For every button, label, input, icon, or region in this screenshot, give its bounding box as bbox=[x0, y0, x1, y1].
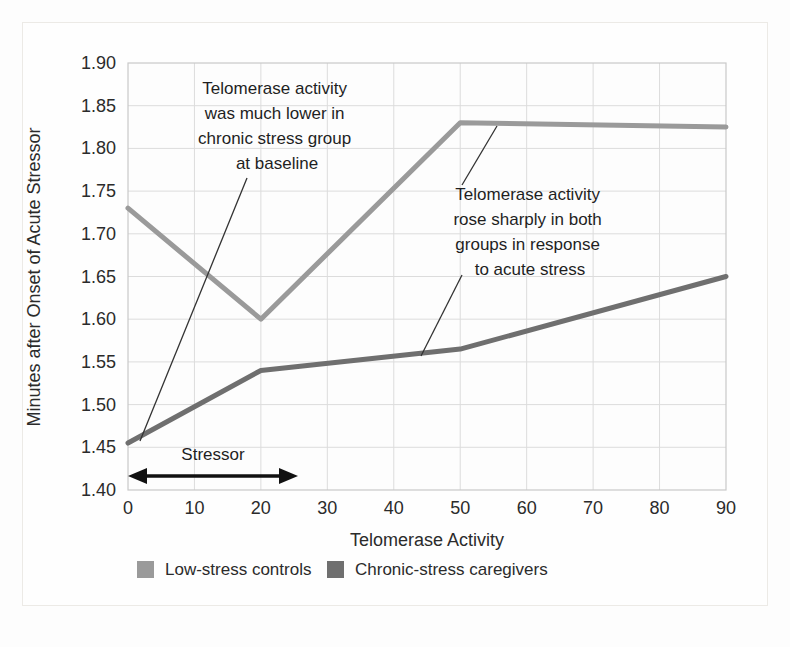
y-tick-label: 1.85 bbox=[81, 96, 116, 116]
chart-legend: Low-stress controls Chronic-stress careg… bbox=[137, 560, 548, 579]
x-tick-label: 10 bbox=[184, 498, 204, 518]
y-tick-label: 1.45 bbox=[81, 437, 116, 457]
x-axis-tick-labels: 0102030405060708090 bbox=[123, 498, 736, 518]
x-tick-label: 40 bbox=[384, 498, 404, 518]
y-axis-title: Minutes after Onset of Acute Stressor bbox=[24, 127, 44, 426]
stressor-label: Stressor bbox=[181, 445, 245, 464]
x-tick-label: 90 bbox=[716, 498, 736, 518]
y-tick-label: 1.70 bbox=[81, 224, 116, 244]
x-tick-label: 70 bbox=[583, 498, 603, 518]
annot2-line4: to acute stress bbox=[475, 260, 586, 279]
y-tick-label: 1.60 bbox=[81, 309, 116, 329]
y-tick-label: 1.65 bbox=[81, 267, 116, 287]
annot2-line3: groups in response bbox=[455, 235, 600, 254]
legend-label-low-stress-controls: Low-stress controls bbox=[165, 560, 311, 579]
legend-item-chronic-stress-caregivers[interactable]: Chronic-stress caregivers bbox=[327, 560, 548, 579]
annot2-line1: Telomerase activity bbox=[455, 185, 600, 204]
x-tick-label: 50 bbox=[450, 498, 470, 518]
legend-swatch-chronic-stress-caregivers bbox=[327, 561, 344, 578]
x-tick-label: 20 bbox=[251, 498, 271, 518]
annot1-line1: Telomerase activity bbox=[202, 79, 347, 98]
y-tick-label: 1.90 bbox=[81, 53, 116, 73]
x-tick-label: 80 bbox=[650, 498, 670, 518]
x-tick-label: 60 bbox=[517, 498, 537, 518]
x-axis-title: Telomerase Activity bbox=[350, 530, 504, 550]
legend-item-low-stress-controls[interactable]: Low-stress controls bbox=[137, 560, 311, 579]
y-tick-label: 1.80 bbox=[81, 138, 116, 158]
y-tick-label: 1.55 bbox=[81, 352, 116, 372]
telomerase-activity-line-chart: 1.901.851.801.751.701.651.601.551.501.45… bbox=[0, 0, 790, 647]
figure-container: 1.901.851.801.751.701.651.601.551.501.45… bbox=[0, 0, 790, 647]
y-axis-tick-labels: 1.901.851.801.751.701.651.601.551.501.45… bbox=[81, 53, 116, 500]
y-tick-label: 1.75 bbox=[81, 181, 116, 201]
legend-label-chronic-stress-caregivers: Chronic-stress caregivers bbox=[355, 560, 548, 579]
y-tick-label: 1.40 bbox=[81, 480, 116, 500]
annot1-line3: chronic stress group bbox=[198, 129, 351, 148]
x-tick-label: 30 bbox=[317, 498, 337, 518]
x-tick-label: 0 bbox=[123, 498, 133, 518]
annot1-line2: was much lower in bbox=[204, 104, 345, 123]
legend-swatch-low-stress-controls bbox=[137, 561, 154, 578]
y-tick-label: 1.50 bbox=[81, 395, 116, 415]
annot2-line2: rose sharply in both bbox=[453, 210, 601, 229]
annot1-line4: at baseline bbox=[236, 154, 318, 173]
